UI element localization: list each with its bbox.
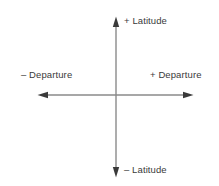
arrowhead-down-icon [113,167,119,178]
latitude-departure-diagram: + Latitude – Latitude – Departure + Depa… [0,0,219,186]
negative-departure-label: – Departure [21,69,72,80]
negative-latitude-label: – Latitude [124,164,167,175]
positive-departure-label: + Departure [150,69,202,80]
arrowhead-left-icon [38,92,49,98]
axes-graphic [0,0,219,186]
arrowhead-right-icon [183,92,194,98]
positive-latitude-label: + Latitude [124,15,167,26]
arrowhead-up-icon [113,17,119,28]
